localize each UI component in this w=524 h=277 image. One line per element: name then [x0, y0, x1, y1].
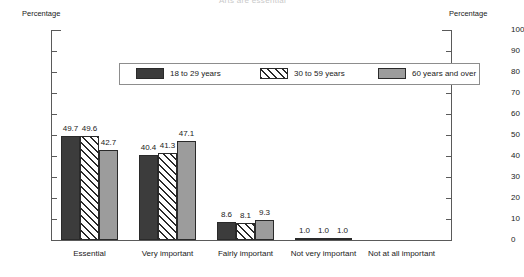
legend-entry-60-and-over: 60 years and over [378, 68, 476, 79]
y-tick-left [52, 156, 57, 157]
y-tick-label-right: 20 [511, 194, 520, 202]
y-tick-left [52, 51, 57, 52]
bar-value-label: 47.1 [173, 130, 200, 138]
y-axis-label-left: Percentage [22, 9, 60, 18]
y-tick-right [446, 156, 451, 157]
bar-value-label: 49.6 [76, 125, 103, 133]
y-tick-right [446, 51, 451, 52]
legend-label: 18 to 29 years [170, 69, 221, 78]
plot-area: 1001009090808070706060505040403030202010… [51, 30, 452, 241]
legend-swatch-icon [136, 68, 164, 79]
y-tick-left [52, 219, 57, 220]
y-tick-label-right: 50 [511, 131, 520, 139]
bar [177, 141, 196, 240]
chart-title: Arts are essential [0, 0, 505, 3]
legend-entry-30-to-59: 30 to 59 years [260, 68, 345, 79]
y-tick-left [52, 72, 57, 73]
y-tick-left [52, 114, 57, 115]
y-tick-left [52, 93, 57, 94]
y-tick-left [52, 135, 57, 136]
bar [255, 220, 274, 240]
y-tick-label-right: 100 [511, 26, 524, 34]
bar [314, 238, 333, 240]
y-tick-right [446, 114, 451, 115]
bar [139, 155, 158, 240]
bar [61, 136, 80, 240]
axis-top-left-cap [51, 30, 61, 31]
legend-label: 60 years and over [412, 69, 476, 78]
y-tick-left [52, 240, 57, 241]
y-tick-right [446, 219, 451, 220]
bar [80, 136, 99, 240]
bar [158, 153, 177, 240]
y-axis-line-right [451, 30, 452, 241]
y-tick-right [446, 240, 451, 241]
y-tick-label-right: 60 [511, 110, 520, 118]
legend-label: 30 to 59 years [294, 69, 345, 78]
y-tick-label-right: 80 [511, 68, 520, 76]
bar [217, 222, 236, 240]
y-tick-label-right: 10 [511, 215, 520, 223]
y-tick-label-right: 0 [511, 236, 515, 244]
bar [333, 238, 352, 240]
legend-entry-18-to-29: 18 to 29 years [136, 68, 221, 79]
y-axis-label-right: Percentage [449, 9, 487, 18]
bar [295, 238, 314, 240]
y-tick-label-right: 70 [511, 89, 520, 97]
chart-legend: 18 to 29 years 30 to 59 years 60 years a… [119, 63, 480, 85]
bar-value-label: 1.0 [329, 227, 356, 235]
bar-value-label: 9.3 [251, 209, 278, 217]
x-axis-category-label: Not at all important [352, 249, 452, 258]
axis-top-right-cap [442, 30, 452, 31]
legend-swatch-icon [260, 68, 288, 79]
y-tick-label-right: 90 [511, 47, 520, 55]
y-tick-label-right: 40 [511, 152, 520, 160]
bar [99, 150, 118, 240]
y-tick-left [52, 198, 57, 199]
y-tick-right [446, 177, 451, 178]
y-tick-right [446, 93, 451, 94]
legend-swatch-icon [378, 68, 406, 79]
y-tick-label-right: 30 [511, 173, 520, 181]
y-tick-left [52, 177, 57, 178]
x-axis-line [51, 240, 452, 241]
y-tick-right [446, 198, 451, 199]
y-tick-right [446, 135, 451, 136]
bar-value-label: 42.7 [95, 139, 122, 147]
bar [236, 223, 255, 240]
